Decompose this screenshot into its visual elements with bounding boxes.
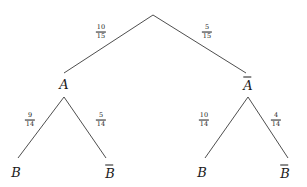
overline-wrapper: B xyxy=(280,165,290,180)
overline-wrapper: A xyxy=(243,77,252,92)
node-label-A-complement: A xyxy=(243,77,252,92)
fraction-numerator: 10 xyxy=(199,112,209,120)
fraction-denominator: 15 xyxy=(96,32,106,41)
fraction-denominator: 15 xyxy=(202,32,212,41)
fraction-numerator: 5 xyxy=(96,112,106,120)
node-label-A: A xyxy=(59,78,68,91)
edge-probability-root-to-A: 10 15 xyxy=(96,24,106,41)
edge-root-to-A xyxy=(64,15,153,73)
probability-tree-diagram: A A B B B B 10 15 5 15 9 14 5 14 10 xyxy=(0,0,307,187)
node-text-B-complement-right: B xyxy=(280,166,290,181)
node-label-B-right: B xyxy=(197,166,207,179)
node-text-B-left: B xyxy=(11,165,21,180)
edge-A-complement-to-B-complement xyxy=(248,97,288,158)
node-label-B-left: B xyxy=(11,166,21,179)
node-text-A-complement: A xyxy=(243,78,252,93)
node-text-B-complement-left: B xyxy=(105,166,115,181)
fraction-numerator: 4 xyxy=(271,112,281,120)
fraction-numerator: 10 xyxy=(96,24,106,32)
fraction-numerator: 9 xyxy=(25,112,35,120)
fraction-denominator: 14 xyxy=(25,120,35,129)
node-label-B-complement-right: B xyxy=(280,165,290,180)
fraction-denominator: 14 xyxy=(199,120,209,129)
edge-probability-A-to-B: 9 14 xyxy=(25,112,35,129)
node-text-A: A xyxy=(59,77,68,92)
node-label-B-complement-left: B xyxy=(105,165,115,180)
tree-edges-layer xyxy=(0,0,307,187)
fraction-denominator: 14 xyxy=(271,120,281,129)
edge-probability-root-to-A-complement: 5 15 xyxy=(202,24,212,41)
fraction-denominator: 14 xyxy=(96,120,106,129)
edge-A-complement-to-B xyxy=(205,97,248,158)
edge-probability-A-complement-to-B: 10 14 xyxy=(199,112,209,129)
edge-probability-A-to-B-complement: 5 14 xyxy=(96,112,106,129)
overline-wrapper: B xyxy=(105,165,115,180)
fraction-numerator: 5 xyxy=(202,24,212,32)
edge-probability-A-complement-to-B-complement: 4 14 xyxy=(271,112,281,129)
node-text-B-right: B xyxy=(197,165,207,180)
edge-root-to-A-complement xyxy=(153,15,246,73)
